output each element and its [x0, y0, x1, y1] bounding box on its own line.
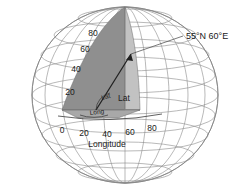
longitude-tick-40: 40 [102, 129, 112, 139]
latitude-tick-20: 20 [65, 87, 75, 97]
longitude-axis-title: Longitude [88, 139, 126, 149]
longitude-tick-20: 20 [79, 128, 89, 138]
globe-figure: Lat Long Lat 0 20 40 60 80 Longitude 20 … [0, 0, 250, 189]
longitude-tick-60: 60 [125, 127, 135, 137]
latitude-tick-60: 60 [80, 44, 90, 54]
longitude-tick-0: 0 [60, 125, 65, 135]
callout-label: 55°N 60°E [186, 31, 228, 41]
lat-face-label: Lat [118, 93, 130, 103]
longitude-tick-80: 80 [147, 123, 157, 133]
latitude-tick-40: 40 [71, 64, 81, 74]
latitude-tick-80: 80 [88, 28, 98, 38]
